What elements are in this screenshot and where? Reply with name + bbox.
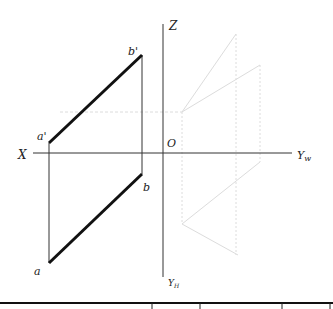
label-yw: Yw — [297, 149, 311, 163]
line-a-b — [49, 174, 142, 263]
label-a: a — [34, 265, 41, 278]
label-b: b — [143, 181, 150, 194]
label-b-prime: b' — [128, 45, 138, 58]
label-a-prime: a' — [37, 130, 47, 143]
label-origin: O — [167, 137, 176, 150]
projection-diagram: X Z O Yw YH a' b' a b — [0, 0, 333, 309]
line-a-prime-b-prime — [49, 55, 142, 143]
label-x: X — [17, 148, 27, 162]
label-z: Z — [168, 19, 178, 33]
label-yh: YH — [168, 278, 180, 289]
